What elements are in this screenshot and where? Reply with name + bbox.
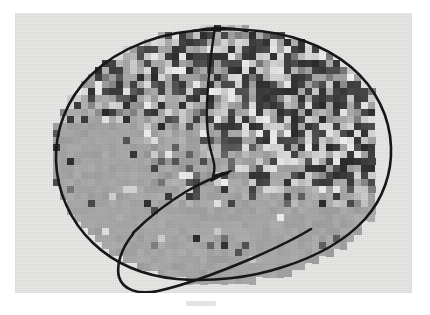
brain-outline-path [56, 29, 391, 280]
brain-outline-layer [15, 13, 412, 293]
caption-smudge [186, 301, 216, 306]
sylvian-fissure-line [133, 173, 228, 233]
temporal-lobe-outline [118, 229, 311, 292]
scanned-figure-panel [15, 13, 412, 293]
central-sulcus-line [207, 27, 215, 176]
figure-root [0, 0, 430, 315]
